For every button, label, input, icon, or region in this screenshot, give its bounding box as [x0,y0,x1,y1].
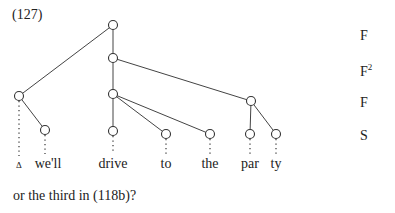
level-superscript: 2 [368,62,373,72]
tree-node-ty [272,130,281,139]
tree-node-drive [109,127,118,136]
word-the: the [201,156,218,172]
level-label-f2: F2 [360,62,372,80]
word-drive: drive [99,156,128,172]
tree-node-to [162,130,171,139]
prosodic-tree [0,0,395,213]
level-label-text: F [360,95,368,110]
tree-node-right-f [247,97,256,106]
tree-node-the [206,130,215,139]
level-label-text: F [360,28,368,43]
tree-node-mid-f [109,90,118,99]
caption-text: or the third in (118b)? [13,188,136,204]
level-label-f: F [360,95,368,111]
word-well: we'll [35,156,62,172]
tree-node-well [41,126,50,135]
word-delta: Δ [16,160,22,170]
level-label-text: S [360,128,368,143]
level-label-s: S [360,128,368,144]
word-to: to [161,156,172,172]
tree-node-root [109,21,118,30]
level-label-text: F [360,64,368,79]
word-par: par [241,156,259,172]
tree-node-left-f [15,92,24,101]
level-label-f: F [360,28,368,44]
tree-node-par [246,130,255,139]
tree-node-f2 [109,54,118,63]
word-ty: ty [271,156,282,172]
